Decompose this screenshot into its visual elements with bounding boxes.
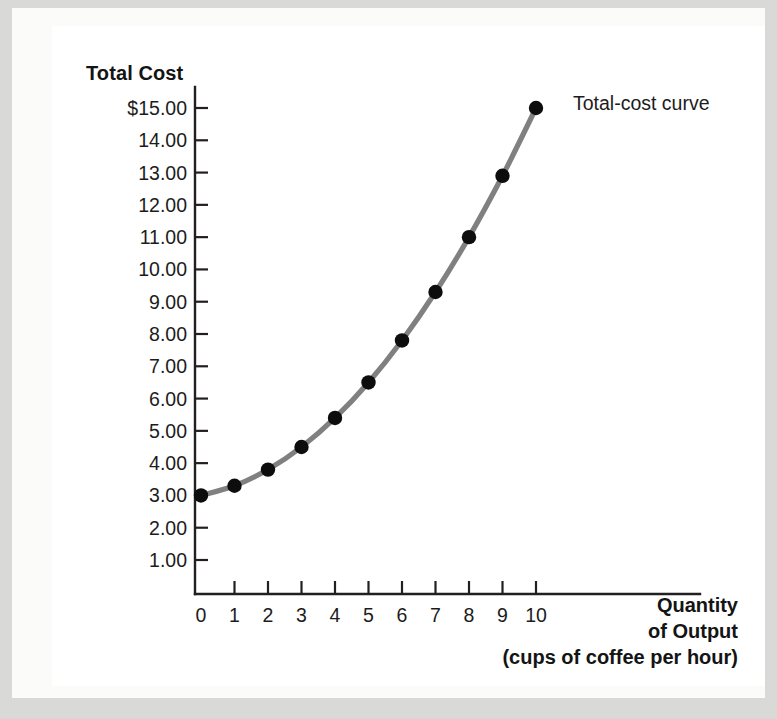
y-tick-label: 5.00	[149, 420, 187, 443]
x-tick-label: 10	[506, 604, 566, 627]
y-tick-label: 7.00	[149, 355, 187, 378]
y-tick-label: 8.00	[149, 323, 187, 346]
data-point-markers	[194, 101, 543, 503]
data-point-marker	[428, 285, 442, 299]
total-cost-curve	[201, 108, 536, 495]
y-tick-label: 9.00	[149, 291, 187, 314]
data-point-marker	[294, 440, 308, 454]
y-tick-label: 3.00	[149, 484, 187, 507]
y-tick-label: 2.00	[149, 517, 187, 540]
y-tick-label: 13.00	[138, 162, 187, 185]
y-tick-label: 14.00	[138, 129, 187, 152]
y-tick-label: 1.00	[149, 549, 187, 572]
chart-page: Total Cost Quantity of Output (cups of c…	[0, 0, 777, 719]
data-point-marker	[495, 169, 509, 183]
x-tick-marks	[235, 581, 537, 594]
data-point-marker	[529, 101, 543, 115]
data-point-marker	[194, 488, 208, 502]
data-point-marker	[361, 375, 375, 389]
y-tick-label: $15.00	[127, 97, 187, 120]
data-point-marker	[328, 411, 342, 425]
total-cost-chart: Total Cost Quantity of Output (cups of c…	[0, 0, 777, 719]
y-tick-label: 6.00	[149, 388, 187, 411]
y-tick-label: 10.00	[138, 258, 187, 281]
y-tick-label: 12.00	[138, 194, 187, 217]
data-point-marker	[462, 230, 476, 244]
data-point-marker	[227, 479, 241, 493]
y-tick-label: 4.00	[149, 452, 187, 475]
y-tick-label: 11.00	[140, 226, 187, 249]
data-point-marker	[395, 333, 409, 347]
data-point-marker	[261, 462, 275, 476]
